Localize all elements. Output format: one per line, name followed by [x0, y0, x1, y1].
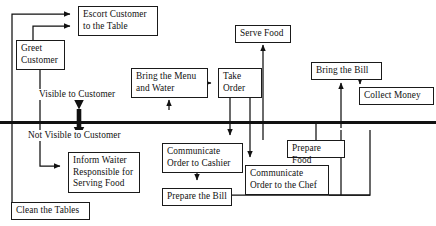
- node-communicate-order-to-cashier[interactable]: Communicate Order to Cashier: [162, 143, 243, 173]
- node-take-order[interactable]: Take Order: [218, 68, 262, 98]
- node-communicate-order-to-the-chef[interactable]: Communicate Order to the Chef: [245, 165, 329, 195]
- node-greet-customer[interactable]: Greet Customer: [16, 40, 65, 70]
- node-escort-customer[interactable]: Escort Customer to the Table: [78, 6, 158, 36]
- service-blueprint-diagram: Visible to Customer Not Visible to Custo…: [0, 0, 436, 226]
- node-serve-food[interactable]: Serve Food: [235, 25, 291, 43]
- edge-greet-to-inform-waiter: [40, 70, 60, 166]
- node-bring-the-bill[interactable]: Bring the Bill: [311, 62, 382, 80]
- node-prepare-the-bill[interactable]: Prepare the Bill: [162, 188, 232, 206]
- node-inform-waiter[interactable]: Inform Waiter Responsible for Serving Fo…: [68, 152, 140, 193]
- node-clean-the-tables[interactable]: Clean the Tables: [11, 202, 90, 220]
- edge-greet-to-escort: [33, 26, 70, 40]
- node-collect-money[interactable]: Collect Money: [359, 87, 434, 105]
- label-visible-to-customer: Visible to Customer: [37, 89, 117, 100]
- node-bring-the-menu-and-water[interactable]: Bring the Menu and Water: [131, 68, 208, 98]
- node-prepare-food[interactable]: Prepare Food: [287, 140, 345, 158]
- label-not-visible-to-customer: Not Visible to Customer: [26, 130, 123, 141]
- line-of-visibility: [0, 121, 436, 124]
